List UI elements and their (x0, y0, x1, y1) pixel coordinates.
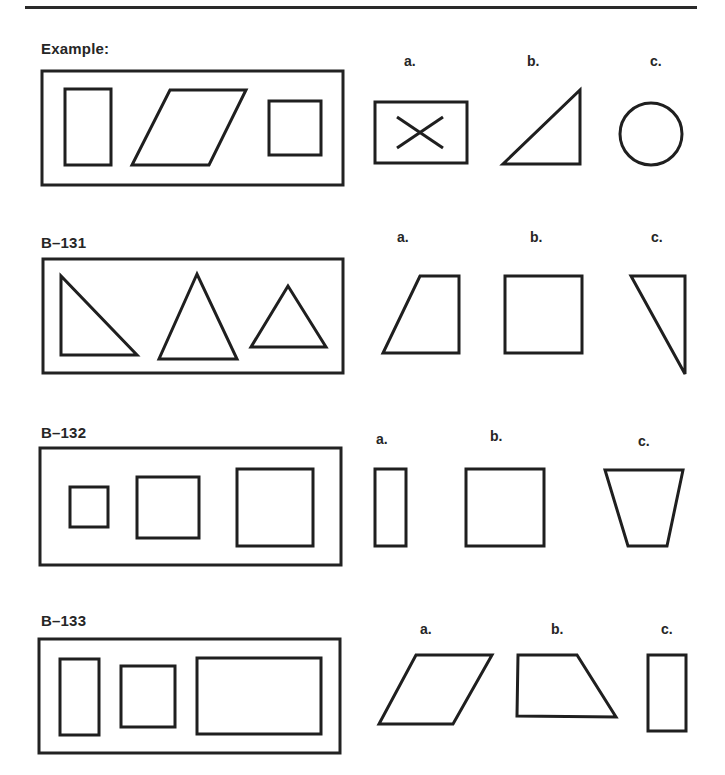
option-a-trapezoid-shape[interactable] (383, 276, 459, 353)
square-shape (269, 101, 321, 155)
worksheet-figures (0, 0, 725, 775)
option-a[interactable] (375, 102, 467, 163)
option-c-tall-rectangle-shape[interactable] (648, 655, 686, 731)
option-b-square-shape[interactable] (505, 276, 582, 353)
wide-rectangle-shape (197, 658, 321, 734)
large-square-shape (237, 469, 313, 546)
item-b132 (40, 448, 683, 565)
small-triangle-shape (251, 286, 326, 347)
option-c-circle-shape[interactable] (620, 103, 682, 165)
item-b131 (43, 259, 685, 374)
option-b-right-triangle-shape[interactable] (503, 90, 580, 164)
option-a-narrow-rectangle-shape[interactable] (375, 469, 406, 546)
small-square-shape (70, 487, 108, 527)
square-shape (121, 666, 175, 727)
tall-rectangle-shape (60, 659, 99, 735)
option-c-inverted-trapezoid-shape[interactable] (605, 470, 683, 546)
option-b-square-shape[interactable] (466, 469, 544, 546)
tall-rectangle-shape (65, 89, 111, 165)
parallelogram-shape (132, 90, 246, 165)
item-b133 (39, 639, 686, 753)
option-b-trapezoid-shape[interactable] (517, 655, 616, 717)
item-example (42, 71, 682, 185)
option-a-parallelogram-shape[interactable] (379, 655, 492, 724)
tall-triangle-shape (159, 274, 237, 359)
medium-square-shape (137, 477, 199, 538)
option-c-narrow-right-triangle-shape[interactable] (631, 276, 685, 374)
right-triangle-shape (61, 276, 137, 355)
